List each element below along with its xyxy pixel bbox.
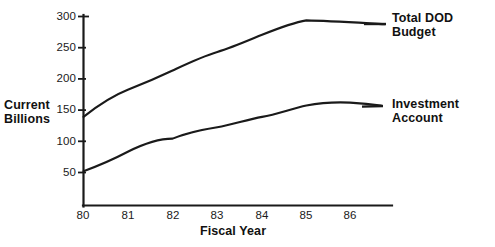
series-label-investment-account: Investment Account — [392, 97, 492, 125]
x-tick-label-83: 83 — [205, 209, 229, 221]
x-tick-label-81: 81 — [116, 209, 140, 221]
x-tick-label-80: 80 — [71, 209, 95, 221]
y-tick-label-200: 200 — [50, 72, 76, 84]
x-axis-title: Fiscal Year — [163, 224, 303, 238]
y-tick-label-250: 250 — [50, 41, 76, 53]
series-label-total-dod-budget: Total DOD Budget — [392, 11, 495, 39]
x-tick-label-82: 82 — [161, 209, 185, 221]
chart-figure: 300 250 200 150 100 50 80 81 82 83 84 85… — [0, 0, 495, 247]
series-label-investment-account-line1: Investment — [392, 97, 492, 111]
x-tick-label-86: 86 — [338, 209, 362, 221]
series-line-investment-account — [84, 102, 382, 171]
y-axis-title: Current Billions — [4, 98, 70, 126]
y-axis-title-line1: Current — [4, 98, 70, 112]
y-tick-label-50: 50 — [50, 166, 76, 178]
x-tick-label-85: 85 — [294, 209, 318, 221]
series-label-investment-account-line2: Account — [392, 111, 492, 125]
leader-line-investment-account — [362, 106, 383, 107]
y-tick-label-300: 300 — [50, 10, 76, 22]
y-axis-title-line2: Billions — [4, 112, 70, 126]
y-tick-label-100: 100 — [50, 135, 76, 147]
x-tick-label-84: 84 — [250, 209, 274, 221]
